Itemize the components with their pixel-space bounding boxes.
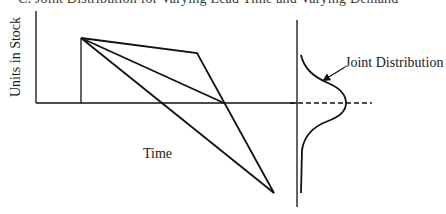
joint-distribution-label: Joint Distribution bbox=[345, 55, 443, 71]
annotation-arrow bbox=[324, 67, 345, 80]
figure-title: C. Joint Distribution for Varying Lead T… bbox=[18, 0, 399, 7]
fast-demand-path bbox=[81, 38, 274, 193]
joint-distribution-curve bbox=[301, 55, 346, 193]
diagram-canvas bbox=[0, 0, 446, 214]
title-clip: C. Joint Distribution for Varying Lead T… bbox=[0, 0, 446, 7]
y-axis-label: Units in Stock bbox=[8, 17, 24, 97]
inventory-diagram: C. Joint Distribution for Varying Lead T… bbox=[0, 0, 446, 214]
x-axis-label: Time bbox=[143, 146, 172, 162]
